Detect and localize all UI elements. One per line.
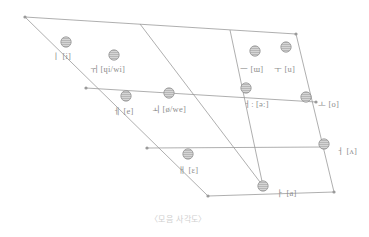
vowel-chart-svg	[0, 0, 369, 237]
vertex-lower-left	[145, 146, 148, 149]
vowel-oe-label: ㅚ [ø/we]	[152, 105, 186, 114]
vertex-bottom-left	[206, 194, 209, 197]
divider-lower	[147, 147, 325, 148]
vowel-eo-long-dot	[241, 83, 251, 93]
vowel-i-dot	[61, 37, 71, 47]
edge-top	[25, 17, 296, 34]
vowel-eo-dot	[319, 139, 329, 149]
vowel-e-dot	[121, 91, 131, 101]
vowel-o-dot	[301, 92, 311, 102]
figure-caption: 〈모음 사각도〉	[150, 213, 207, 224]
vertex-top-left	[23, 15, 26, 18]
vertex-bottom-right	[332, 190, 335, 193]
vowel-oe-dot	[164, 88, 174, 98]
vowel-eu-dot	[250, 46, 260, 56]
vertex-top-right	[294, 32, 297, 35]
vowel-u-label: ㅜ [u]	[274, 65, 295, 74]
vowel-e-label: ㅔ [e]	[113, 107, 134, 116]
vertex-mid-left	[84, 86, 87, 89]
edge-bottom	[208, 192, 334, 196]
vowel-wi-dot	[109, 50, 119, 60]
vowel-ae-label: ㅐ [ɛ]	[178, 166, 198, 175]
vowel-eo-label: ㅓ [ʌ]	[336, 147, 357, 156]
vowel-o-label: ㅗ [o]	[318, 100, 339, 109]
vowel-i-label: ㅣ [i]	[52, 52, 71, 61]
vowel-eu-label: ㅡ [ɯ]	[240, 65, 263, 74]
vowel-a-dot	[258, 181, 268, 191]
vowel-ae-dot	[183, 149, 193, 159]
vowel-quadrilateral-figure: ㅣ [i]ㅟ [ɥi/wi]ㅔ [e]ㅚ [ø/we]ㅡ [ɯ]ㅜ [u]ㅓ: …	[0, 0, 369, 237]
vowel-a-label: ㅏ [a]	[276, 189, 297, 198]
vowel-u-dot	[281, 42, 291, 52]
edge-right	[296, 34, 334, 192]
vowel-wi-label: ㅟ [ɥi/wi]	[90, 65, 125, 74]
vowel-eo-long-label: ㅓ: [ə:]	[243, 100, 269, 109]
divider-mid	[86, 88, 316, 102]
